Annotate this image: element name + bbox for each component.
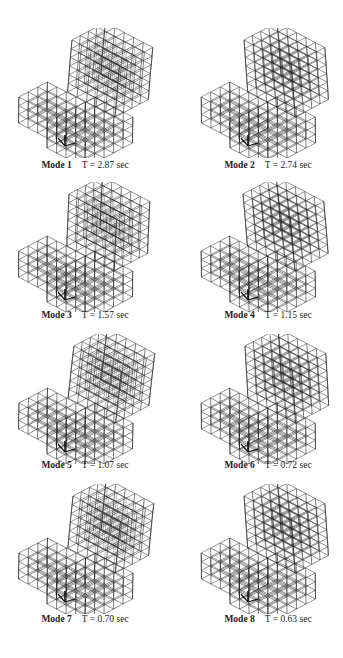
building-wireframe: yzx [193, 334, 343, 464]
svg-text:x: x [75, 594, 78, 599]
mode-shape-panel-2: yzx Mode 2T = 2.74 sec [193, 28, 343, 178]
mode-caption: Mode 8T = 0.63 sec [193, 614, 343, 624]
mode-shape-panel-6: yzx Mode 6T = 0.72 sec [193, 334, 343, 484]
period-label: T = 2.74 sec [265, 160, 312, 170]
mode-shape-panel-1: yzx Mode 1T = 2.87 sec [10, 28, 160, 178]
svg-text:x: x [75, 292, 78, 297]
svg-text:x: x [75, 444, 78, 449]
period-label: T = 0.72 sec [265, 460, 312, 470]
mode-label: Mode 4 [224, 310, 254, 320]
period-label: T = 2.87 sec [82, 160, 129, 170]
svg-text:x: x [258, 292, 261, 297]
mode-label: Mode 1 [41, 160, 71, 170]
mode-label: Mode 7 [41, 614, 71, 624]
svg-text:x: x [258, 138, 261, 143]
mode-label: Mode 8 [224, 614, 254, 624]
mode-shape-panel-7: yzx Mode 7T = 0.70 sec [10, 484, 160, 634]
building-wireframe: yzx [10, 484, 160, 614]
building-wireframe: yzx [193, 182, 343, 312]
svg-text:x: x [258, 594, 261, 599]
building-wireframe: yzx [193, 484, 343, 614]
svg-text:x: x [75, 138, 78, 143]
mode-caption: Mode 6T = 0.72 sec [193, 460, 343, 470]
period-label: T = 0.63 sec [265, 614, 312, 624]
mode-label: Mode 6 [224, 460, 254, 470]
mode-caption: Mode 4T = 1.15 sec [193, 310, 343, 320]
mode-caption: Mode 1T = 2.87 sec [10, 160, 160, 170]
mode-caption: Mode 7T = 0.70 sec [10, 614, 160, 624]
mode-shape-panel-5: yzx Mode 5T = 1.07 sec [10, 334, 160, 484]
mode-caption: Mode 3T = 1.57 sec [10, 310, 160, 320]
mode-label: Mode 2 [224, 160, 254, 170]
svg-text:x: x [258, 444, 261, 449]
period-label: T = 1.15 sec [265, 310, 312, 320]
building-wireframe: yzx [193, 28, 343, 158]
mode-caption: Mode 5T = 1.07 sec [10, 460, 160, 470]
mode-caption: Mode 2T = 2.74 sec [193, 160, 343, 170]
building-wireframe: yzx [10, 334, 160, 464]
mode-shape-panel-8: yzx Mode 8T = 0.63 sec [193, 484, 343, 634]
period-label: T = 1.07 sec [82, 460, 129, 470]
period-label: T = 0.70 sec [82, 614, 129, 624]
mode-shape-panel-3: yzx Mode 3T = 1.57 sec [10, 182, 160, 332]
building-wireframe: yzx [10, 182, 160, 312]
mode-shape-panel-4: yzx Mode 4T = 1.15 sec [193, 182, 343, 332]
period-label: T = 1.57 sec [82, 310, 129, 320]
mode-label: Mode 5 [41, 460, 71, 470]
building-wireframe: yzx [10, 28, 160, 158]
mode-label: Mode 3 [41, 310, 71, 320]
